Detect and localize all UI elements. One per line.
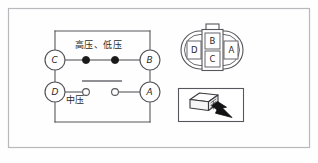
figure-root: 高压、低压 中压 C B D A D B C A bbox=[0, 0, 318, 163]
terminal-circle-d bbox=[45, 82, 65, 102]
connector-plug-group bbox=[179, 89, 244, 122]
connector-pin-cavity-b bbox=[205, 33, 220, 49]
terminal-circle-b bbox=[140, 50, 160, 70]
connector-pin-cavity-d bbox=[187, 41, 201, 59]
figure-canvas bbox=[0, 0, 318, 163]
contact-left-closed bbox=[82, 56, 89, 63]
connector-pin-cavity-a bbox=[224, 41, 238, 59]
terminal-circle-a bbox=[140, 82, 160, 102]
terminal-circle-c bbox=[45, 50, 65, 70]
plug-front-face bbox=[190, 100, 209, 111]
connector-pin-cavity-c bbox=[205, 51, 220, 67]
outer-frame bbox=[9, 9, 310, 148]
contact-left-open bbox=[83, 89, 90, 96]
contact-right-open bbox=[112, 89, 119, 96]
contact-right-closed bbox=[111, 56, 118, 63]
